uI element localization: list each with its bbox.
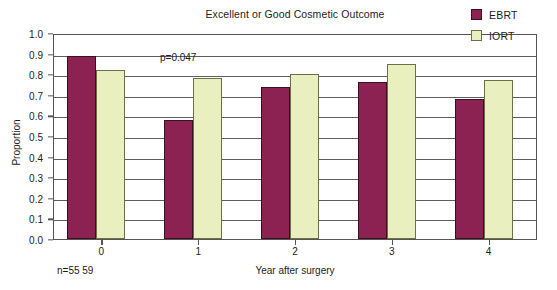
y-tick-label: 0.7	[29, 90, 43, 101]
bar-iort-year-3[interactable]	[387, 64, 416, 239]
x-tick-label: 0	[99, 246, 105, 257]
y-tick-label: 0.9	[29, 49, 43, 60]
bar-ebrt-year-3[interactable]	[358, 82, 387, 239]
legend-swatch-ebrt	[471, 9, 482, 20]
bar-iort-year-0[interactable]	[96, 70, 125, 239]
y-tick-label: 0.6	[29, 111, 43, 122]
p-value-annotation: p=0.047	[160, 52, 196, 63]
y-tick-label: 0.8	[29, 70, 43, 81]
bar-ebrt-year-1[interactable]	[164, 120, 193, 239]
y-tick-label: 0.5	[29, 132, 43, 143]
y-tick-label: 0.2	[29, 193, 43, 204]
x-tick-label: 3	[389, 246, 395, 257]
x-tick-label: 1	[195, 246, 201, 257]
legend-swatch-iort	[471, 30, 482, 41]
chart-title: Excellent or Good Cosmetic Outcome	[53, 8, 537, 20]
gridline	[54, 56, 536, 57]
x-tick-mark	[295, 240, 296, 245]
bar-iort-year-2[interactable]	[290, 74, 319, 239]
legend-label-ebrt: EBRT	[489, 9, 518, 21]
bar-ebrt-year-0[interactable]	[67, 56, 96, 239]
x-tick-mark	[392, 240, 393, 245]
y-tick-label: 0.3	[29, 173, 43, 184]
bar-iort-year-1[interactable]	[193, 78, 222, 239]
y-axis: 0.00.10.20.30.40.50.60.70.80.91.0	[0, 0, 53, 290]
x-tick-mark	[489, 240, 490, 245]
legend: EBRT IORT	[471, 4, 549, 46]
cosmetic-outcome-bar-chart: Excellent or Good Cosmetic Outcome 0.00.…	[0, 0, 557, 290]
x-tick-label: 2	[292, 246, 298, 257]
y-tick-label: 0.1	[29, 214, 43, 225]
plot-area	[53, 34, 537, 240]
bar-iort-year-4[interactable]	[484, 80, 513, 239]
x-tick-mark	[101, 240, 102, 245]
y-tick-label: 1.0	[29, 29, 43, 40]
x-axis-title: Year after surgery	[53, 265, 537, 276]
legend-item-iort[interactable]: IORT	[471, 25, 549, 46]
y-axis-title: Proportion	[11, 83, 22, 203]
bar-ebrt-year-2[interactable]	[261, 87, 290, 239]
bar-ebrt-year-4[interactable]	[455, 99, 484, 239]
legend-label-iort: IORT	[489, 30, 515, 42]
x-tick-label: 4	[486, 246, 492, 257]
sample-size-annotation: n=55 59	[57, 265, 93, 276]
x-tick-mark	[198, 240, 199, 245]
y-tick-label: 0.0	[29, 235, 43, 246]
legend-item-ebrt[interactable]: EBRT	[471, 4, 549, 25]
y-tick-label: 0.4	[29, 152, 43, 163]
